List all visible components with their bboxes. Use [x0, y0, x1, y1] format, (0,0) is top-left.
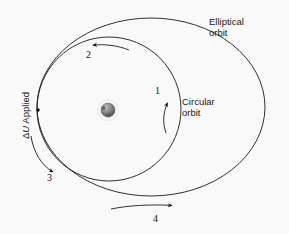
elliptical-orbit-label: Ellipticalorbit [209, 16, 244, 38]
step-marker-4: 4 [153, 213, 158, 224]
direction-arrow-4 [111, 205, 172, 209]
u-symbol: U [20, 126, 31, 133]
circular-orbit-label-line1: Circular [182, 96, 215, 107]
diagram-canvas [0, 0, 289, 234]
direction-arrow-1 [164, 103, 168, 133]
elliptical-orbit-path [37, 18, 265, 196]
direction-arrow-2 [93, 45, 129, 50]
applied-text: Applied [20, 92, 31, 126]
delta-symbol: Δ [20, 133, 31, 139]
step-marker-2: 2 [86, 49, 91, 60]
circular-orbit-label: Circularorbit [182, 96, 215, 118]
elliptical-orbit-label-line1: Elliptical [209, 16, 244, 27]
delta-u-applied-label: ΔU Applied [20, 80, 31, 152]
burn-point-dot [36, 108, 39, 111]
direction-arrow-3 [31, 136, 53, 172]
elliptical-orbit-label-line2: orbit [209, 27, 227, 38]
circular-orbit-label-line2: orbit [182, 107, 200, 118]
step-marker-1: 1 [155, 85, 160, 96]
orbit-transfer-diagram: Ellipticalorbit Circularorbit ΔU Applied… [0, 0, 289, 234]
step-marker-3: 3 [47, 172, 52, 183]
